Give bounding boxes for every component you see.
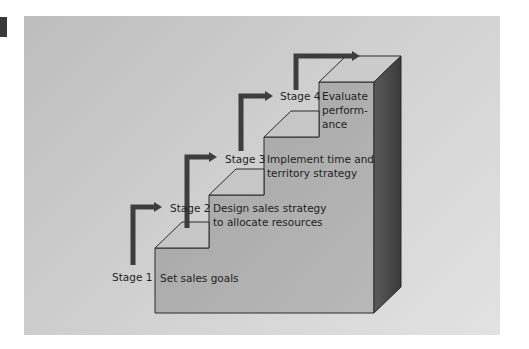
step-3-top-face bbox=[264, 111, 319, 137]
stage-4-label: Stage 4 bbox=[280, 90, 320, 103]
stage-3-description-line-1: Implement time and bbox=[267, 152, 374, 166]
arrow-stage-1 bbox=[133, 207, 155, 265]
stage-1-description: Set sales goals bbox=[160, 271, 239, 285]
stage-4-description-line-3: ance bbox=[322, 117, 368, 131]
stage-2-label: Stage 2 bbox=[170, 202, 210, 215]
stage-4-description-line-1: Evaluate bbox=[322, 89, 368, 103]
stage-2-description-line-2: to allocate resources bbox=[213, 215, 326, 229]
step-2-top-face bbox=[209, 169, 264, 195]
stage-3-label: Stage 3 bbox=[225, 153, 265, 166]
stage-1-label: Stage 1 bbox=[112, 271, 152, 284]
stage-2-description-line-1: Design sales strategy bbox=[213, 201, 326, 215]
stage-4-description-line-2: perform- bbox=[322, 103, 368, 117]
stage-3-description-line-2: territory strategy bbox=[267, 166, 374, 180]
step-1-top-face bbox=[155, 222, 209, 248]
arrow-stage-2 bbox=[187, 157, 210, 228]
arrowhead-stage-2 bbox=[209, 152, 217, 162]
stage-2-description: Design sales strategy to allocate resour… bbox=[213, 201, 326, 229]
staircase-side-face bbox=[374, 56, 401, 313]
stage-4-description: Evaluate perform- ance bbox=[322, 89, 368, 131]
arrowhead-stage-1 bbox=[154, 202, 162, 212]
staircase-graphic bbox=[0, 0, 529, 349]
stage-3-description: Implement time and territory strategy bbox=[267, 152, 374, 180]
arrow-stage-3 bbox=[241, 96, 266, 151]
arrowhead-stage-3 bbox=[265, 91, 273, 101]
